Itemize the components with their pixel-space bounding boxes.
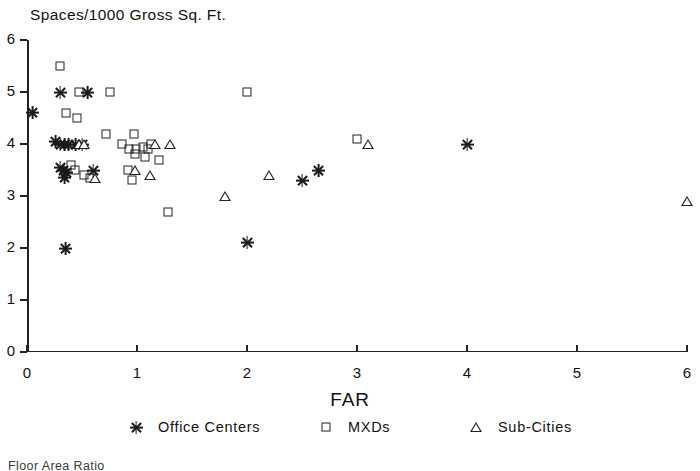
data-point-office-centers-17 — [312, 164, 325, 177]
y-tick-label-3: 3 — [0, 186, 15, 203]
x-tick-3 — [356, 345, 358, 352]
data-point-sub-cities-6 — [144, 170, 156, 180]
x-tick-label-3: 3 — [345, 364, 369, 381]
figure-caption: Floor Area Ratio — [8, 459, 105, 471]
legend-label-office-centers: Office Centers — [158, 419, 260, 435]
data-point-mxds-15 — [140, 153, 149, 162]
legend-label-mxds: MXDs — [348, 419, 390, 435]
y-tick-1 — [20, 299, 27, 301]
data-point-mxds-16 — [155, 155, 164, 164]
x-tick-label-0: 0 — [15, 364, 39, 381]
y-tick-4 — [20, 143, 27, 145]
data-point-mxds-7 — [129, 129, 138, 138]
triangle-icon — [468, 419, 484, 435]
data-point-mxds-5 — [72, 114, 81, 123]
square-icon — [318, 419, 334, 435]
data-point-sub-cities-3 — [164, 139, 176, 149]
data-point-office-centers-1 — [54, 86, 67, 99]
data-point-office-centers-12 — [58, 171, 71, 184]
x-tick-6 — [686, 345, 688, 352]
data-point-mxds-0 — [56, 62, 65, 71]
data-point-office-centers-0 — [26, 106, 39, 119]
data-point-sub-cities-7 — [219, 191, 231, 201]
plot-area: 0123456 0123456 — [27, 40, 687, 352]
data-point-sub-cities-4 — [89, 173, 101, 183]
legend-label-sub-cities: Sub-Cities — [498, 419, 572, 435]
y-axis-line — [27, 40, 29, 352]
data-point-sub-cities-8 — [263, 170, 275, 180]
data-point-office-centers-16 — [296, 174, 309, 187]
x-tick-0 — [26, 345, 28, 352]
y-tick-3 — [20, 195, 27, 197]
data-point-sub-cities-10 — [681, 196, 693, 206]
chart-legend: Office Centers MXDs Sub-Cities — [0, 414, 700, 440]
x-tick-label-4: 4 — [455, 364, 479, 381]
y-tick-5 — [20, 91, 27, 93]
x-tick-label-2: 2 — [235, 364, 259, 381]
data-point-sub-cities-5 — [129, 165, 141, 175]
y-tick-label-6: 6 — [0, 30, 15, 47]
y-tick-label-2: 2 — [0, 238, 15, 255]
scatter-chart-figure: Spaces/1000 Gross Sq. Ft. 0123456 012345… — [0, 0, 700, 471]
x-tick-2 — [246, 345, 248, 352]
data-point-mxds-1 — [74, 88, 83, 97]
data-point-mxds-24 — [353, 134, 362, 143]
x-tick-5 — [576, 345, 578, 352]
data-point-office-centers-15 — [241, 236, 254, 249]
data-point-office-centers-18 — [461, 138, 474, 151]
data-point-mxds-23 — [163, 207, 172, 216]
legend-entry-office-centers: Office Centers — [128, 414, 260, 440]
x-tick-1 — [136, 345, 138, 352]
x-tick-label-1: 1 — [125, 364, 149, 381]
y-tick-2 — [20, 247, 27, 249]
legend-entry-sub-cities: Sub-Cities — [468, 414, 572, 440]
data-point-office-centers-14 — [59, 242, 72, 255]
y-tick-label-1: 1 — [0, 290, 15, 307]
data-point-mxds-18 — [71, 166, 80, 175]
y-tick-label-4: 4 — [0, 134, 15, 151]
star-asterisk-icon — [128, 419, 144, 435]
data-point-sub-cities-2 — [149, 139, 161, 149]
x-tick-label-5: 5 — [565, 364, 589, 381]
chart-title: Spaces/1000 Gross Sq. Ft. — [30, 6, 226, 24]
data-point-sub-cities-9 — [362, 139, 374, 149]
data-point-mxds-14 — [130, 150, 139, 159]
data-point-mxds-6 — [102, 129, 111, 138]
y-tick-6 — [20, 39, 27, 41]
x-tick-label-6: 6 — [675, 364, 699, 381]
data-point-sub-cities-1 — [78, 139, 90, 149]
data-point-mxds-4 — [61, 108, 70, 117]
y-tick-label-0: 0 — [0, 342, 15, 359]
x-axis-title: FAR — [0, 389, 700, 411]
y-tick-label-5: 5 — [0, 82, 15, 99]
legend-entry-mxds: MXDs — [318, 414, 390, 440]
data-point-mxds-22 — [127, 176, 136, 185]
data-point-mxds-2 — [105, 88, 114, 97]
x-tick-4 — [466, 345, 468, 352]
data-point-mxds-3 — [243, 88, 252, 97]
